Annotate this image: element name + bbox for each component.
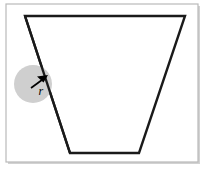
- figure-container: r: [0, 0, 205, 170]
- geometry-diagram: r: [0, 0, 205, 170]
- radius-label: r: [39, 84, 44, 98]
